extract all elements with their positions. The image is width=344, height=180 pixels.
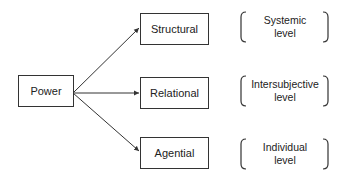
level-individual: Individual level xyxy=(244,139,326,169)
node-label: Structural xyxy=(151,23,198,35)
node-agential: Agential xyxy=(140,137,209,169)
level-line2: level xyxy=(274,91,296,104)
level-line1: Individual xyxy=(263,141,307,154)
node-power: Power xyxy=(18,75,74,107)
level-intersubjective: Intersubjective level xyxy=(244,76,326,106)
node-label: Relational xyxy=(150,87,199,99)
node-label: Power xyxy=(30,85,61,97)
level-systemic: Systemic level xyxy=(244,12,326,42)
node-structural: Structural xyxy=(140,13,209,45)
level-line2: level xyxy=(274,27,296,40)
arrow-to-structural xyxy=(73,28,139,93)
node-relational: Relational xyxy=(140,77,209,109)
level-line2: level xyxy=(274,154,296,167)
node-label: Agential xyxy=(155,147,195,159)
level-line1: Intersubjective xyxy=(251,78,319,91)
level-line1: Systemic xyxy=(264,14,307,27)
arrow-to-agential xyxy=(73,93,139,151)
